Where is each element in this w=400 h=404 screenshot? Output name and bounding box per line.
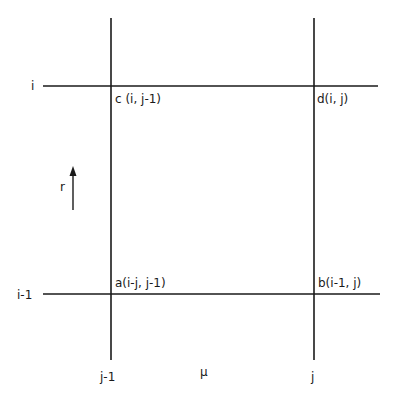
node-label-b: b(i-1, j)	[318, 276, 361, 290]
grid-cell-diagram: i i-1 j-1 j μ r c (i, j-1) d(i, j) a(i-j…	[0, 0, 400, 404]
axis-label-mu: μ	[200, 365, 208, 379]
column-label-j-minus-1: j-1	[99, 370, 115, 384]
node-label-c: c (i, j-1)	[115, 92, 161, 106]
node-label-a: a(i-j, j-1)	[115, 276, 166, 290]
node-label-d: d(i, j)	[317, 92, 348, 106]
row-label-i: i	[31, 79, 34, 93]
r-direction-arrow-icon	[70, 166, 77, 210]
row-label-i-minus-1: i-1	[17, 288, 32, 302]
column-label-j: j	[310, 370, 314, 384]
axis-label-r: r	[60, 180, 65, 194]
